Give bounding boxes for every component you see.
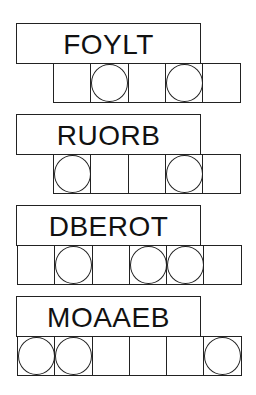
answer-cell-5[interactable] [166,245,205,285]
answer-cell-1[interactable] [53,63,92,103]
circle-marker-icon [130,246,167,284]
answer-cell-1[interactable] [17,245,56,285]
scrambled-word-box: FOYLT [16,23,201,64]
circle-marker-icon [167,246,204,284]
scrambled-word-box: MOAAEB [16,296,201,337]
answer-cell-2[interactable] [90,154,129,194]
circle-marker-icon [204,337,241,375]
answer-cell-5[interactable] [166,336,205,376]
answer-cell-3[interactable] [92,336,131,376]
answer-cell-2[interactable] [90,63,129,103]
circle-marker-icon [54,155,91,193]
circle-marker-icon [18,337,55,375]
answer-cell-3[interactable] [128,63,167,103]
answer-cells [17,336,242,376]
scrambled-word-box: RUORB [16,114,201,155]
scrambled-word: FOYLT [63,31,154,59]
circle-marker-icon [55,246,92,284]
scrambled-word-box: DBEROT [16,205,201,246]
answer-cell-4[interactable] [165,63,204,103]
answer-cells [17,245,242,285]
circle-marker-icon [55,337,92,375]
circle-marker-icon [166,155,203,193]
answer-cell-5[interactable] [202,63,241,103]
answer-cells [53,63,241,103]
scrambled-word: RUORB [57,122,161,150]
scrambled-word: DBEROT [49,213,169,241]
answer-cell-6[interactable] [203,245,242,285]
answer-cell-2[interactable] [54,336,93,376]
scrambled-word: MOAAEB [47,304,170,332]
answer-cell-4[interactable] [165,154,204,194]
answer-cell-1[interactable] [53,154,92,194]
answer-cell-3[interactable] [92,245,131,285]
answer-cell-5[interactable] [202,154,241,194]
circle-marker-icon [91,64,128,102]
answer-cell-6[interactable] [203,336,242,376]
circle-marker-icon [166,64,203,102]
answer-cell-4[interactable] [129,245,168,285]
answer-cell-4[interactable] [129,336,168,376]
answer-cell-1[interactable] [17,336,56,376]
answer-cell-3[interactable] [128,154,167,194]
answer-cells [53,154,241,194]
answer-cell-2[interactable] [54,245,93,285]
